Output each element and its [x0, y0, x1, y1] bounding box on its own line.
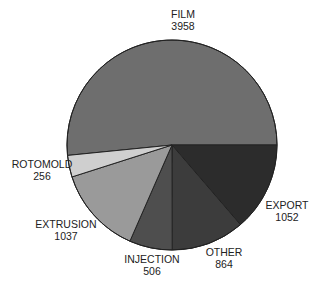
label-export-value: 1052	[266, 211, 309, 223]
label-export: EXPORT 1052	[266, 199, 309, 223]
label-injection-value: 506	[124, 265, 179, 277]
label-other-name: OTHER	[206, 246, 243, 258]
slice-film	[67, 40, 277, 155]
pie-chart	[0, 0, 320, 288]
label-injection: INJECTION 506	[124, 253, 179, 277]
label-other-value: 864	[206, 258, 243, 270]
label-film-name: FILM	[171, 8, 195, 20]
label-film: FILM 3958	[171, 8, 195, 32]
label-injection-name: INJECTION	[124, 253, 179, 265]
label-other: OTHER 864	[206, 246, 243, 270]
label-extrusion-name: EXTRUSION	[35, 218, 96, 230]
label-rotomold-value: 256	[12, 170, 72, 182]
label-export-name: EXPORT	[266, 199, 309, 211]
label-rotomold-name: ROTOMOLD	[12, 158, 72, 170]
label-rotomold: ROTOMOLD 256	[12, 158, 72, 182]
label-extrusion: EXTRUSION 1037	[35, 218, 96, 242]
label-film-value: 3958	[171, 20, 195, 32]
label-extrusion-value: 1037	[35, 230, 96, 242]
